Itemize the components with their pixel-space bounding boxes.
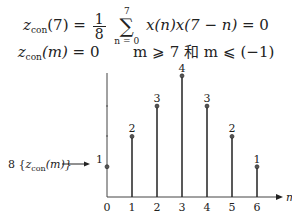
data-label: 3 <box>154 92 161 105</box>
stems: 1234321 <box>96 62 261 197</box>
series-label: 8 {zcon(m)} <box>8 158 72 173</box>
x-tick-labels: 0123456 <box>104 201 261 214</box>
pointer-arrow-icon <box>84 162 90 167</box>
data-label: 2 <box>229 122 236 135</box>
stem-marker <box>105 165 109 169</box>
data-label: 1 <box>96 153 103 166</box>
y-tick <box>106 135 108 137</box>
data-label: 1 <box>254 153 261 166</box>
series-label-prefix: 8 { <box>8 158 26 171</box>
series-label-sub: con <box>31 164 45 173</box>
x-axis-label: m <box>286 191 292 204</box>
x-axis-arrow-icon <box>276 194 283 200</box>
y-tick <box>106 105 108 107</box>
x-tick-label: 1 <box>129 201 136 214</box>
stem-plot: m 1234321 0123456 8 {zcon(m)} <box>0 0 292 214</box>
x-tick-label: 2 <box>154 201 161 214</box>
x-tick-label: 3 <box>179 201 186 214</box>
data-label: 4 <box>179 62 186 75</box>
x-tick-label: 5 <box>229 201 236 214</box>
x-tick-label: 6 <box>254 201 261 214</box>
x-tick-label: 0 <box>104 201 111 214</box>
data-label: 3 <box>204 92 211 105</box>
data-label: 2 <box>129 122 136 135</box>
x-tick-label: 4 <box>204 201 211 214</box>
